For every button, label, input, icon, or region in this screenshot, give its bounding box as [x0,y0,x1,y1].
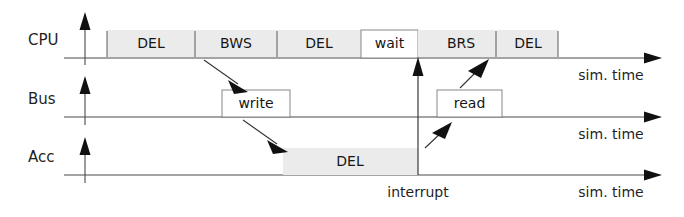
bus-block-label-0: write [238,95,273,111]
cpu-axis-time-label: sim. time [578,67,643,83]
acc-time-arrowhead [644,170,662,181]
bus-axis-time-label: sim. time [578,126,643,142]
bus-time-axis [64,112,662,123]
cpu-block-label-2: DEL [305,35,333,51]
interrupt-label: interrupt [387,184,449,200]
cpu-block-label-1: BWS [220,35,252,51]
connector-bus-read-to-cpu-brs [460,59,489,88]
lane-label-acc: Acc [28,148,55,166]
bus-block-label-1: read [454,95,486,111]
cpu-blocks: DEL BWS DEL wait BRS DEL [107,30,558,58]
connector-cpu-bws-to-bus-write [204,60,248,94]
cpu-block-label-0: DEL [137,35,165,51]
acc-block-label-0: DEL [336,153,364,169]
lane-acc: Acc DEL sim. time [28,137,662,200]
acc-axis-time-label: sim. time [578,184,643,200]
timing-diagram-canvas: CPU DEL BWS DEL [0,0,684,217]
bus-vertical-axis [80,76,91,125]
cpu-block-label-3: wait [375,35,405,51]
lane-label-cpu: CPU [28,31,59,49]
connector-arrowhead-brs-in [468,59,489,78]
interrupt-marker: interrupt [387,57,449,200]
acc-blocks: DEL [283,148,418,175]
bus-time-arrowhead [644,112,662,123]
cpu-block-label-4: BRS [447,35,475,51]
cpu-block-label-5: DEL [514,35,542,51]
interrupt-arrowhead [413,57,424,76]
acc-vertical-arrowhead [80,137,91,155]
timing-diagram: CPU DEL BWS DEL [0,0,684,217]
cpu-time-arrowhead [644,53,662,64]
connector-arrowhead-read-in [432,122,452,139]
acc-vertical-axis [80,137,91,183]
lane-label-bus: Bus [28,90,56,108]
connector-bus-write-to-acc-del [243,120,288,154]
bus-blocks: write read [222,90,502,117]
connector-arrowhead-acc-in [267,140,288,154]
cpu-vertical-axis [80,12,91,65]
cpu-vertical-arrowhead [80,12,91,30]
lane-bus: Bus write read sim. time [28,76,662,142]
bus-vertical-arrowhead [80,76,91,94]
lane-cpu: CPU DEL BWS DEL [28,12,662,83]
connector-interrupt-to-bus-read [425,122,452,148]
